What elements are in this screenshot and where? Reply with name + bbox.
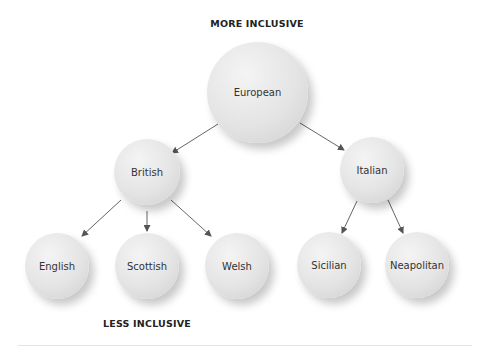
edge-british-welsh: [171, 200, 211, 236]
edge-british-english: [82, 200, 121, 236]
node-label: British: [131, 167, 163, 178]
node-label: Neapolitan: [390, 260, 444, 271]
edge-italian-sicilian: [342, 201, 357, 233]
node-european: European: [207, 42, 308, 143]
node-british: British: [114, 139, 180, 205]
edge-european-british: [172, 124, 218, 153]
node-neapolitan: Neapolitan: [385, 232, 449, 298]
node-label: European: [234, 87, 282, 98]
node-label: Welsh: [222, 261, 252, 272]
node-english: English: [25, 233, 89, 299]
node-label: Italian: [356, 165, 387, 176]
node-sicilian: Sicilian: [297, 232, 361, 298]
edge-european-italian: [300, 123, 344, 150]
bottom-divider: [18, 345, 472, 346]
node-italian: Italian: [340, 137, 404, 203]
less-inclusive-label: LESS INCLUSIVE: [103, 318, 191, 329]
node-label: English: [39, 261, 75, 272]
node-label: Sicilian: [311, 260, 346, 271]
node-welsh: Welsh: [205, 233, 269, 299]
edge-italian-neapolitan: [388, 200, 403, 233]
node-scottish: Scottish: [115, 233, 179, 299]
node-label: Scottish: [127, 261, 167, 272]
